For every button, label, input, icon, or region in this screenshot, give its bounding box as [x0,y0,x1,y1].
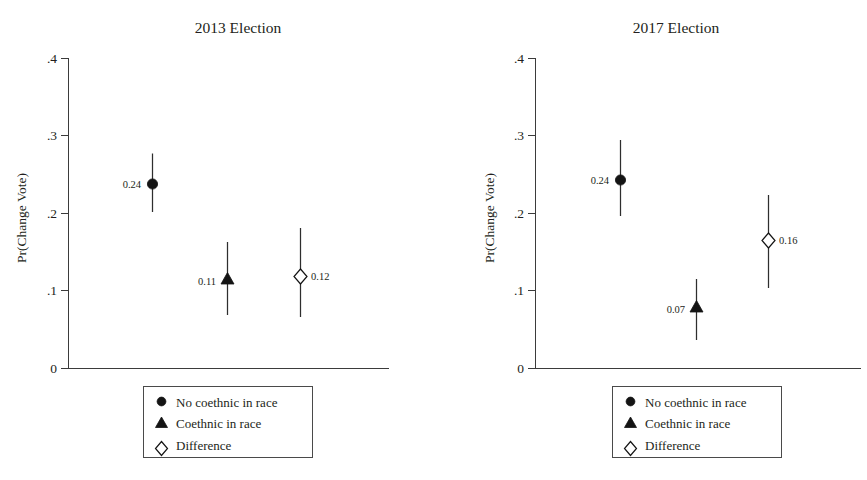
chart-svg-2017: 2017 Election Pr(Change Vote) .4 .3 .2 .… [433,0,867,480]
marker-filled-circle-icon [615,175,625,185]
y-tick-label-0.2-2017: .2 [514,206,524,221]
legend-label-difference-2017: Difference [645,438,701,453]
y-axis-2013: .4 .3 .2 .1 0 [47,51,69,376]
y-axis-title-2017: Pr(Change Vote) [482,173,497,263]
legend-item-no-coethnic-2017[interactable]: No coethnic in race [626,395,747,410]
legend-2017: No coethnic in race Coethnic in race Dif… [613,387,782,458]
legend-item-coethnic-2013[interactable]: Coethnic in race [156,416,262,431]
y-tick-label-0.3-2013: .3 [47,128,57,143]
legend-item-difference-2013[interactable]: Difference [156,438,232,456]
marker-open-diamond-icon [762,233,775,248]
legend-filled-circle-icon [626,397,635,406]
y-tick-label-0.2-2013: .2 [47,206,57,221]
y-axis-2017: .4 .3 .2 .1 0 [514,51,536,376]
y-tick-label-0.4-2013: .4 [47,51,57,66]
figure-container: 2013 Election Pr(Change Vote) .4 .3 .2 .… [0,0,867,480]
legend-open-diamond-icon [156,442,168,456]
y-tick-label-0-2017: 0 [517,361,524,376]
legend-label-coethnic-2013: Coethnic in race [176,416,261,431]
marker-filled-circle-icon [147,179,157,189]
panel-title-2013: 2013 Election [195,19,282,36]
legend-filled-triangle-icon [156,417,168,428]
point-value-label-difference-2017: 0.16 [779,235,797,246]
series-point-no-coethnic-2013: 0.24 [123,154,158,213]
legend-open-diamond-icon [625,442,637,456]
y-tick-label-0.1-2013: .1 [47,283,57,298]
legend-filled-circle-icon [157,397,166,406]
chart-panel-2017: 2017 Election Pr(Change Vote) .4 .3 .2 .… [433,0,867,480]
series-point-difference-2013: 0.12 [294,228,329,317]
point-value-label-no-coethnic-2017: 0.24 [591,175,610,186]
point-value-label-coethnic-2013: 0.11 [198,276,216,287]
legend-label-coethnic-2017: Coethnic in race [645,416,730,431]
y-tick-label-0-2013: 0 [50,361,57,376]
y-tick-label-0.4-2017: .4 [514,51,524,66]
panel-title-2017: 2017 Election [633,19,720,36]
legend-label-difference-2013: Difference [176,438,232,453]
chart-svg-2013: 2013 Election Pr(Change Vote) .4 .3 .2 .… [0,0,433,480]
legend-2013: No coethnic in race Coethnic in race Dif… [144,387,313,458]
legend-item-no-coethnic-2013[interactable]: No coethnic in race [157,395,278,410]
marker-filled-triangle-icon [690,301,703,313]
point-value-label-no-coethnic-2013: 0.24 [123,179,142,190]
y-tick-label-0.1-2017: .1 [514,283,524,298]
series-point-difference-2017: 0.16 [762,195,797,288]
legend-filled-triangle-icon [625,417,637,428]
legend-item-coethnic-2017[interactable]: Coethnic in race [625,416,731,431]
chart-panel-2013: 2013 Election Pr(Change Vote) .4 .3 .2 .… [0,0,433,480]
series-point-coethnic-2013: 0.11 [198,242,234,315]
y-tick-label-0.3-2017: .3 [514,128,524,143]
marker-open-diamond-icon [294,269,307,284]
legend-label-no-coethnic-2013: No coethnic in race [176,395,278,410]
point-value-label-coethnic-2017: 0.07 [667,304,685,315]
legend-label-no-coethnic-2017: No coethnic in race [645,395,747,410]
legend-item-difference-2017[interactable]: Difference [625,438,701,456]
point-value-label-difference-2013: 0.12 [311,271,329,282]
marker-filled-triangle-icon [221,273,234,285]
y-axis-title-2013: Pr(Change Vote) [14,173,29,263]
series-point-coethnic-2017: 0.07 [667,279,703,340]
series-point-no-coethnic-2017: 0.24 [591,140,626,216]
